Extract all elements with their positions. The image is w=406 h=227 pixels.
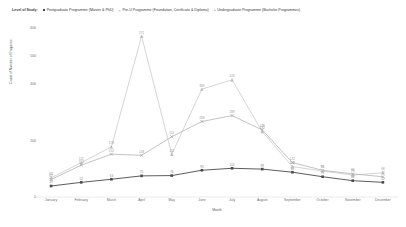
data-label: 63 bbox=[110, 174, 114, 178]
data-point bbox=[110, 145, 113, 148]
x-tick-label: March bbox=[107, 198, 116, 202]
data-label: 289 bbox=[229, 110, 234, 114]
data-label: 122 bbox=[79, 157, 84, 161]
data-point bbox=[261, 168, 264, 171]
series-0: 3952637576951029988725852 bbox=[49, 163, 385, 188]
data-point bbox=[80, 181, 83, 184]
data-label: 152 bbox=[169, 149, 174, 153]
x-tick-label: September bbox=[284, 198, 301, 202]
data-point bbox=[321, 175, 324, 178]
legend-item-undergraduate[interactable]: Undergraduate Programme (Bachelor Progra… bbox=[214, 8, 300, 12]
x-tick-label: February bbox=[74, 198, 88, 202]
data-label: 214 bbox=[169, 131, 174, 135]
legend-item-postgraduate[interactable]: Postgraduate Programme (Master & PhD) bbox=[43, 8, 114, 12]
data-point bbox=[382, 181, 385, 184]
x-tick-label: July bbox=[229, 198, 235, 202]
square-marker-icon bbox=[43, 9, 45, 11]
x-tick-label: August bbox=[257, 198, 268, 202]
chart-canvas: 3952637576951029988725852621131521482142… bbox=[36, 22, 398, 200]
data-label: 75 bbox=[140, 170, 144, 174]
x-axis-title: Month bbox=[36, 208, 398, 212]
series-1: 62113152148214268289238122958272 bbox=[49, 110, 385, 181]
data-label: 416 bbox=[229, 74, 234, 78]
data-point bbox=[50, 185, 53, 188]
series-line bbox=[51, 168, 383, 186]
data-label: 78 bbox=[351, 169, 355, 173]
x-tick-label: January bbox=[45, 198, 57, 202]
data-label: 102 bbox=[229, 163, 234, 167]
data-label: 92 bbox=[321, 165, 325, 169]
data-label: 95 bbox=[200, 165, 204, 169]
legend-title: Level of Study: bbox=[12, 8, 38, 12]
y-axis-tick-labels: 0200400500600 bbox=[20, 22, 36, 197]
data-label: 76 bbox=[170, 170, 174, 174]
chart-page: Level of Study: Postgraduate Programme (… bbox=[0, 0, 406, 227]
x-tick-label: May bbox=[169, 198, 175, 202]
data-label: 178 bbox=[109, 141, 114, 145]
legend-label-preu: Pre-U Programme (Foundation, Certificate… bbox=[122, 8, 208, 12]
data-label: 86 bbox=[381, 167, 385, 171]
legend-label-undergraduate: Undergraduate Programme (Bachelor Progra… bbox=[217, 8, 300, 12]
data-point bbox=[170, 152, 173, 155]
data-label: 268 bbox=[199, 116, 204, 120]
x-tick-label: June bbox=[198, 198, 205, 202]
series-2: 68122178571152383416232108927886 bbox=[49, 31, 385, 180]
x-tick-label: November bbox=[345, 198, 361, 202]
data-label: 68 bbox=[49, 172, 53, 176]
chart-legend: Level of Study: Postgraduate Programme (… bbox=[12, 8, 300, 12]
data-point bbox=[291, 171, 294, 174]
data-point bbox=[231, 167, 234, 170]
data-label: 571 bbox=[139, 31, 144, 35]
data-point bbox=[201, 169, 204, 172]
y-axis-title: Count of Number of Enquiries bbox=[9, 39, 13, 84]
legend-label-postgraduate: Postgraduate Programme (Master & PhD) bbox=[47, 8, 114, 12]
x-tick-label: October bbox=[317, 198, 329, 202]
data-label: 383 bbox=[199, 84, 204, 88]
data-point bbox=[110, 178, 113, 181]
legend-item-preu[interactable]: × Pre-U Programme (Foundation, Certifica… bbox=[119, 8, 209, 12]
data-point bbox=[170, 135, 173, 138]
series-line bbox=[51, 36, 383, 178]
data-label: 232 bbox=[260, 126, 265, 130]
x-tick-label: April bbox=[138, 198, 145, 202]
triangle-marker-icon bbox=[214, 9, 216, 11]
x-marker-icon: × bbox=[119, 9, 121, 12]
data-label: 108 bbox=[290, 161, 295, 165]
series-line bbox=[51, 116, 383, 180]
data-point bbox=[351, 179, 354, 182]
data-point bbox=[200, 87, 203, 90]
data-label: 52 bbox=[80, 177, 84, 181]
data-label: 152 bbox=[109, 149, 114, 153]
data-label: 52 bbox=[381, 177, 385, 181]
data-point bbox=[230, 78, 233, 81]
data-point bbox=[170, 174, 173, 177]
plot-area: Count of Number of Enquiries 02004005006… bbox=[0, 22, 406, 207]
x-tick-label: December bbox=[375, 198, 391, 202]
data-label: 99 bbox=[261, 164, 265, 168]
data-point bbox=[140, 175, 143, 178]
data-point bbox=[140, 34, 143, 37]
data-label: 148 bbox=[139, 150, 144, 154]
